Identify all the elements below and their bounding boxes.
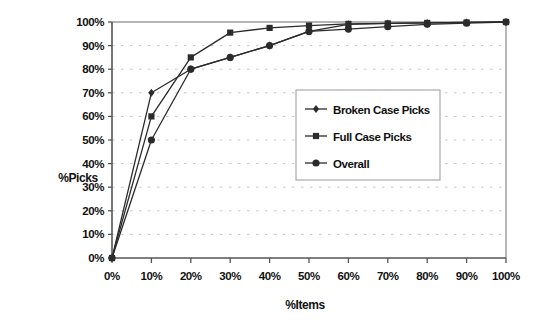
data-point-marker-circle xyxy=(108,254,115,261)
y-tick-label: 20% xyxy=(82,205,104,217)
x-tick-label: 90% xyxy=(456,270,478,282)
data-point-marker-circle xyxy=(305,28,312,35)
data-point-marker-circle xyxy=(384,23,391,30)
x-tick-label: 30% xyxy=(219,270,241,282)
y-tick-label: 40% xyxy=(82,158,104,170)
y-tick-label: 0% xyxy=(88,252,104,264)
x-axis-title: %Items xyxy=(285,298,325,312)
data-point-marker-circle xyxy=(463,20,470,27)
data-point-marker-square xyxy=(313,133,319,139)
legend-label: Broken Case Picks xyxy=(333,104,430,116)
x-tick-label: 10% xyxy=(140,270,162,282)
legend-label: Overall xyxy=(333,158,369,170)
data-point-marker-circle xyxy=(312,159,319,166)
data-point-marker-square xyxy=(188,54,194,60)
data-point-marker-circle xyxy=(424,21,431,28)
data-point-marker-square xyxy=(267,25,273,31)
data-point-marker-circle xyxy=(227,54,234,61)
x-tick-label: 100% xyxy=(492,270,520,282)
legend-label: Full Case Picks xyxy=(333,131,411,143)
x-tick-label: 70% xyxy=(377,270,399,282)
data-point-marker-circle xyxy=(148,136,155,143)
y-tick-label: 70% xyxy=(82,87,104,99)
y-tick-label: 100% xyxy=(76,16,104,28)
y-tick-label: 60% xyxy=(82,110,104,122)
data-point-marker-circle xyxy=(502,18,509,25)
x-tick-label: 50% xyxy=(298,270,320,282)
legend: Broken Case PicksFull Case PicksOverall xyxy=(296,90,440,180)
y-tick-label: 80% xyxy=(82,63,104,75)
y-axis-title: %Picks xyxy=(58,171,98,185)
x-tick-label: 0% xyxy=(104,270,120,282)
data-point-marker-circle xyxy=(266,42,273,49)
data-point-marker-square xyxy=(227,30,233,36)
x-tick-label: 80% xyxy=(416,270,438,282)
data-point-marker-circle xyxy=(345,25,352,32)
data-point-marker-circle xyxy=(187,66,194,73)
data-point-marker-square xyxy=(306,22,312,28)
line-chart: 0%10%20%30%40%50%60%70%80%90%100% 0%10%2… xyxy=(0,0,540,329)
y-tick-label: 90% xyxy=(82,40,104,52)
x-tick-label: 20% xyxy=(180,270,202,282)
data-point-marker-square xyxy=(148,113,154,119)
x-tick-label: 40% xyxy=(259,270,281,282)
y-tick-label: 10% xyxy=(82,228,104,240)
x-tick-label: 60% xyxy=(337,270,359,282)
chart-container: 0%10%20%30%40%50%60%70%80%90%100% 0%10%2… xyxy=(0,0,540,329)
y-tick-label: 50% xyxy=(82,134,104,146)
